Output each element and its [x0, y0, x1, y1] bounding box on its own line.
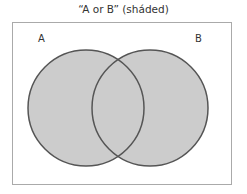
- label-a: A: [38, 33, 45, 44]
- venn-diagram: A B: [0, 0, 247, 194]
- label-b: B: [195, 33, 202, 44]
